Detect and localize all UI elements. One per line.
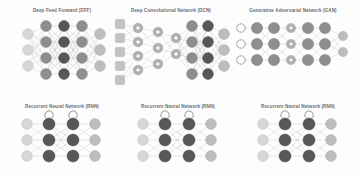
dff-nodes xyxy=(23,21,106,80)
panel-title-rnn-2: Recurrent Neural Network (RNN) xyxy=(141,104,215,110)
panel-gan: Generative Adversarial Network (GAN) xyxy=(229,8,357,74)
diagram-sheet: Deep Feed Forward (DFF) xyxy=(0,0,360,178)
rnn1-edges xyxy=(27,111,95,156)
dcn-nodes xyxy=(115,19,229,84)
rnn2-edges xyxy=(143,111,211,156)
dff-edges xyxy=(28,26,100,74)
gan-nodes xyxy=(237,22,348,65)
panel-rnn-2: Recurrent Neural Network (RNN) xyxy=(122,104,234,168)
panel-title-gan: Generative Adversarial Network (GAN) xyxy=(249,8,336,14)
rnn3-edges xyxy=(263,111,331,156)
panel-rnn-1: Recurrent Neural Network (RNN) xyxy=(6,104,118,168)
generative-adversarial-network-diagram xyxy=(233,16,353,74)
dcn-kernel-node xyxy=(133,23,181,75)
panel-title-rnn-3: Recurrent Neural Network (RNN) xyxy=(261,104,335,110)
recurrent-neural-network-diagram-1 xyxy=(17,112,107,168)
recurrent-neural-network-diagram-3 xyxy=(253,112,343,168)
panel-title-dcn: Deep Convolutional Network (DCN) xyxy=(131,8,211,14)
rnn1-self-loop xyxy=(45,111,77,118)
rnn2-self-loop xyxy=(161,111,193,118)
panel-dff: Deep Feed Forward (DFF) xyxy=(6,8,118,84)
deep-convolutional-network-diagram xyxy=(112,16,230,86)
rnn3-self-loop xyxy=(281,111,313,118)
panel-title-dff: Deep Feed Forward (DFF) xyxy=(33,8,91,14)
panel-title-rnn-1: Recurrent Neural Network (RNN) xyxy=(25,104,99,110)
recurrent-neural-network-diagram-2 xyxy=(133,112,223,168)
panel-dcn: Deep Convolutional Network (DCN) xyxy=(108,8,234,86)
deep-feed-forward-diagram xyxy=(14,16,110,84)
panel-rnn-3: Recurrent Neural Network (RNN) xyxy=(240,104,356,168)
gan-match-node xyxy=(286,23,295,64)
